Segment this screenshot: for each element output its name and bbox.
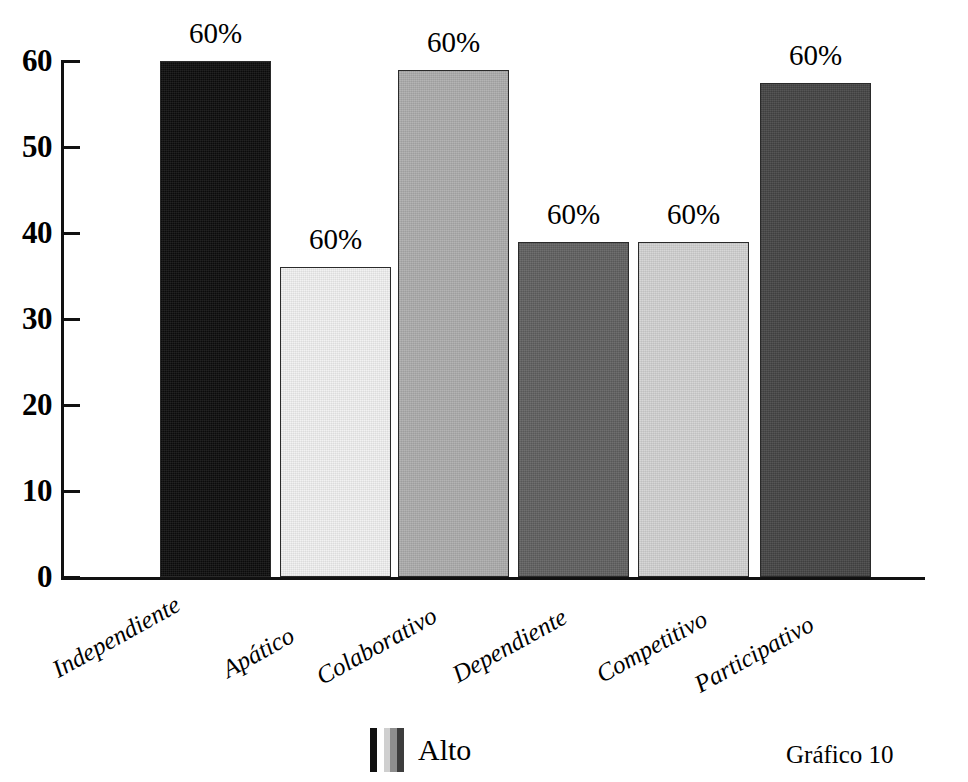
plot-area: 0102030405060 60%60%60%60%60%60%	[0, 0, 968, 620]
bars-layer	[0, 0, 968, 578]
bar-chart: 0102030405060 60%60%60%60%60%60% Indepen…	[0, 0, 968, 782]
bar	[398, 70, 509, 577]
bar-value-label: 60%	[160, 19, 271, 48]
legend-swatch-icon	[370, 728, 404, 772]
bar	[518, 242, 629, 577]
bar	[160, 61, 271, 577]
legend-label-alto: Alto	[418, 735, 471, 765]
legend-swatch-stripe	[370, 728, 377, 772]
bar	[638, 242, 749, 577]
legend-swatch-stripe	[390, 728, 397, 772]
bar	[760, 83, 871, 578]
x-axis-category-label: Apático	[218, 622, 298, 682]
figure-caption: Gráfico 10	[786, 742, 894, 767]
legend-swatch-stripe	[397, 728, 404, 772]
legend-swatch-stripe	[384, 728, 391, 772]
bar	[280, 267, 391, 577]
bar-value-label: 60%	[280, 225, 391, 254]
bar-value-label: 60%	[638, 200, 749, 229]
bar-value-label: 60%	[398, 28, 509, 57]
bar-value-label: 60%	[760, 41, 871, 70]
legend-swatch-stripe	[377, 728, 384, 772]
legend: Alto	[370, 728, 471, 772]
bar-value-label: 60%	[518, 200, 629, 229]
